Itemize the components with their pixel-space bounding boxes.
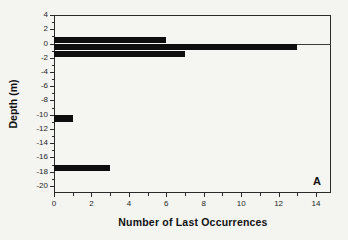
panel-letter-label: A <box>313 175 321 187</box>
y-axis-minor-tick <box>52 93 55 94</box>
x-axis-tick <box>91 193 92 197</box>
bar <box>54 165 110 172</box>
x-tick-label: 12 <box>268 199 290 209</box>
bar <box>54 37 166 44</box>
y-axis-minor-tick <box>52 150 55 151</box>
y-axis-tick <box>50 86 54 87</box>
y-axis-minor-tick <box>52 79 55 80</box>
y-axis-minor-tick <box>52 136 55 137</box>
y-tick-label: 2 <box>20 24 48 34</box>
y-tick-label: -6 <box>20 81 48 91</box>
figure-panel: Depth (m) Number of Last Occurrences A 4… <box>0 0 348 240</box>
y-axis-minor-tick <box>52 36 55 37</box>
y-tick-label: -16 <box>20 152 48 162</box>
y-tick-label: -12 <box>20 124 48 134</box>
y-tick-label: -10 <box>20 110 48 120</box>
y-axis-tick <box>50 143 54 144</box>
y-axis-tick <box>50 72 54 73</box>
x-axis-minor-tick <box>110 193 111 196</box>
bar <box>54 51 185 58</box>
y-axis-tick <box>50 172 54 173</box>
y-axis-minor-tick <box>52 22 55 23</box>
x-tick-label: 4 <box>118 199 140 209</box>
y-axis-tick <box>50 186 54 187</box>
x-axis-tick <box>241 193 242 197</box>
y-axis-tick <box>50 58 54 59</box>
x-axis-minor-tick <box>148 193 149 196</box>
y-axis-tick <box>50 115 54 116</box>
x-axis-minor-tick <box>260 193 261 196</box>
y-axis-tick <box>50 129 54 130</box>
y-axis-tick <box>50 29 54 30</box>
y-axis-tick <box>50 44 54 45</box>
y-axis-minor-tick <box>52 51 55 52</box>
y-tick-label: 0 <box>20 39 48 49</box>
x-tick-label: 6 <box>155 199 177 209</box>
x-axis-tick <box>279 193 280 197</box>
bar <box>54 44 297 51</box>
x-axis-tick <box>166 193 167 197</box>
y-axis-minor-tick <box>52 65 55 66</box>
x-tick-label: 14 <box>305 199 327 209</box>
y-tick-label: -4 <box>20 67 48 77</box>
y-axis-minor-tick <box>52 165 55 166</box>
y-tick-label: -20 <box>20 181 48 191</box>
bar <box>54 115 73 122</box>
x-tick-label: 2 <box>80 199 102 209</box>
x-tick-label: 8 <box>193 199 215 209</box>
y-tick-label: -14 <box>20 138 48 148</box>
y-tick-label: -2 <box>20 53 48 63</box>
x-axis-tick <box>54 193 55 197</box>
y-axis-minor-tick <box>52 122 55 123</box>
y-tick-label: -8 <box>20 95 48 105</box>
y-axis-tick <box>50 15 54 16</box>
x-axis-minor-tick <box>222 193 223 196</box>
x-tick-label: 10 <box>230 199 252 209</box>
y-tick-label: -18 <box>20 167 48 177</box>
x-axis-minor-tick <box>297 193 298 196</box>
x-axis-tick <box>129 193 130 197</box>
y-axis-title: Depth (m) <box>7 80 19 129</box>
y-axis-tick <box>50 100 54 101</box>
y-axis-minor-tick <box>52 179 55 180</box>
x-axis-tick <box>204 193 205 197</box>
x-axis-minor-tick <box>73 193 74 196</box>
x-axis-minor-tick <box>185 193 186 196</box>
y-axis-minor-tick <box>52 108 55 109</box>
x-tick-label: 0 <box>43 199 65 209</box>
y-tick-label: 4 <box>20 10 48 20</box>
x-axis-title: Number of Last Occurrences <box>118 216 267 228</box>
y-axis-tick <box>50 157 54 158</box>
x-axis-tick <box>316 193 317 197</box>
